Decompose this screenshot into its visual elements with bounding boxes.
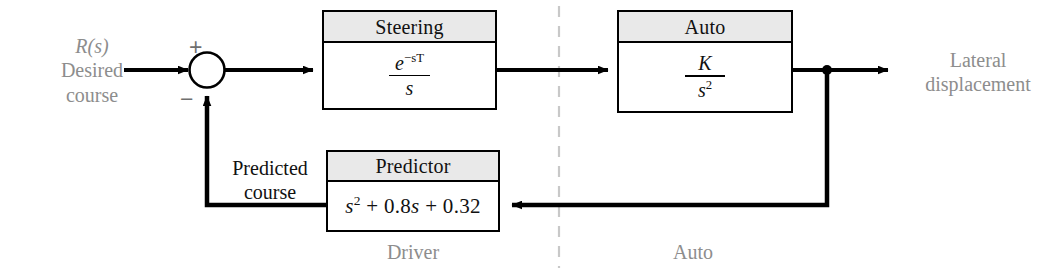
section-label-auto: Auto [628, 240, 758, 264]
auto-numerator: K [692, 53, 717, 75]
output-signal-line2: displacement [905, 72, 1051, 96]
output-signal-label: Lateral displacement [905, 48, 1051, 97]
predictor-poly-s2: s [411, 194, 419, 218]
block-steering-transfer-function: e−sT s [324, 43, 495, 108]
summing-junction-plus-sign: + [189, 36, 202, 59]
input-signal-symbol: R(s) [44, 34, 140, 58]
block-auto-header: Auto [619, 12, 791, 43]
block-auto[interactable]: Auto K s2 [617, 10, 793, 113]
feedback-signal-label: Predicted course [216, 156, 324, 205]
wire-layer [0, 0, 1053, 274]
steering-numerator-exponent: −sT [404, 51, 424, 65]
auto-denominator-base: s [698, 79, 706, 101]
predictor-poly-s1: s [345, 194, 353, 218]
steering-denominator: s [400, 76, 420, 99]
output-signal-line1: Lateral [905, 48, 1051, 72]
block-auto-transfer-function: K s2 [619, 43, 791, 111]
block-steering-header: Steering [324, 12, 495, 43]
block-steering[interactable]: Steering e−sT s [322, 10, 497, 110]
block-predictor[interactable]: Predictor s2 + 0.8s + 0.32 [326, 150, 500, 232]
summing-junction-minus-sign: − [180, 88, 193, 111]
predictor-poly-mid: + 0.8 [366, 194, 411, 218]
feedback-signal-line1: Predicted [216, 156, 324, 180]
input-signal-line2: course [44, 83, 140, 107]
predictor-poly-tail: + 0.32 [425, 194, 481, 218]
predictor-poly-s1-exponent: 2 [354, 193, 361, 208]
input-signal-line1: Desired [44, 58, 140, 82]
input-signal-label: R(s) Desired course [44, 34, 140, 107]
block-diagram: + − R(s) Desired course Steering e−sT s … [0, 0, 1053, 274]
auto-denominator-exponent: 2 [706, 78, 712, 92]
feedback-signal-line2: course [216, 180, 324, 204]
block-predictor-header: Predictor [328, 152, 498, 182]
block-predictor-transfer-function: s2 + 0.8s + 0.32 [328, 182, 498, 230]
steering-numerator-base: e [395, 52, 404, 74]
section-label-driver: Driver [348, 240, 478, 264]
